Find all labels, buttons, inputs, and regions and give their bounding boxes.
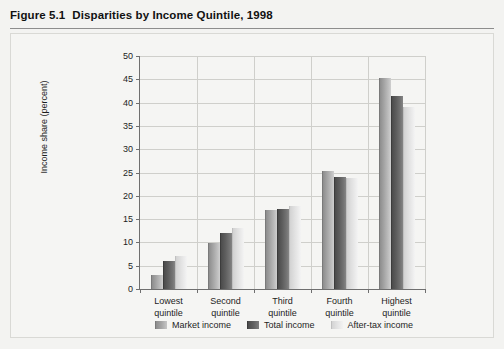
x-gridline — [197, 56, 198, 289]
chart-frame: Income share (percent) 05101520253035404… — [10, 33, 494, 338]
y-axis-tick — [136, 266, 140, 267]
y-axis-label: 35 — [123, 121, 133, 130]
legend-item-market[interactable]: Market income — [155, 320, 231, 330]
legend-item-aftertax[interactable]: After-tax income — [331, 320, 414, 330]
bar-total — [334, 177, 346, 289]
y-axis-label: 20 — [123, 191, 133, 200]
y-axis-label: 5 — [128, 261, 133, 270]
y-axis-tick — [136, 56, 140, 57]
x-gridline — [311, 56, 312, 289]
bar-total — [277, 209, 289, 289]
bar-aftertax — [403, 107, 415, 289]
plot-inner: 05101520253035404550LowestquintileSecond… — [140, 56, 425, 289]
bar-total — [391, 96, 403, 289]
bar-market — [265, 210, 277, 289]
bar-market — [379, 78, 391, 289]
bar-aftertax — [175, 256, 187, 289]
legend-swatch-icon — [247, 321, 259, 329]
y-axis-label: 50 — [123, 52, 133, 61]
x-axis-category-line: quintile — [364, 308, 430, 320]
bar-aftertax — [289, 206, 301, 289]
x-axis-tick — [311, 289, 312, 293]
plot-area: 05101520253035404550LowestquintileSecond… — [139, 56, 425, 290]
y-axis-label: 15 — [123, 215, 133, 224]
legend-swatch-icon — [155, 321, 167, 329]
bar-market — [151, 275, 163, 289]
x-gridline — [254, 56, 255, 289]
y-gridline — [140, 56, 425, 57]
bar-market — [208, 243, 220, 289]
y-axis-label: 25 — [123, 168, 133, 177]
x-axis-tick — [254, 289, 255, 293]
legend-item-label: Total income — [264, 320, 315, 330]
legend-swatch-icon — [331, 321, 343, 329]
legend-item-label: After-tax income — [348, 320, 414, 330]
y-axis-label: 10 — [123, 238, 133, 247]
y-axis-tick — [136, 149, 140, 150]
x-axis-category-line: Highest — [364, 296, 430, 308]
y-axis-tick — [136, 79, 140, 80]
y-axis-tick — [136, 126, 140, 127]
y-axis-tick — [136, 219, 140, 220]
title-divider — [10, 28, 494, 29]
y-axis-tick — [136, 196, 140, 197]
x-axis-tick — [197, 289, 198, 293]
y-axis-tick — [136, 173, 140, 174]
x-gridline — [368, 56, 369, 289]
y-axis-label: 40 — [123, 98, 133, 107]
y-axis-label: 30 — [123, 145, 133, 154]
x-axis-category-label: Highestquintile — [364, 296, 430, 319]
figure-title-text: Disparities by Income Quintile, 1998 — [72, 9, 272, 21]
x-axis-tick — [425, 289, 426, 293]
bar-aftertax — [346, 178, 358, 289]
y-axis-tick — [136, 103, 140, 104]
bar-total — [220, 233, 232, 289]
y-axis-tick — [136, 242, 140, 243]
figure-number: Figure 5.1 — [10, 9, 65, 21]
y-axis-label: 0 — [128, 285, 133, 294]
bar-market — [322, 171, 334, 289]
figure-title: Figure 5.1Disparities by Income Quintile… — [10, 8, 494, 22]
bar-total — [163, 261, 175, 289]
chart-legend: Market incomeTotal incomeAfter-tax incom… — [139, 320, 429, 330]
figure-container: Figure 5.1Disparities by Income Quintile… — [0, 0, 504, 349]
legend-item-label: Market income — [172, 320, 231, 330]
x-axis-tick — [368, 289, 369, 293]
x-axis-tick — [140, 289, 141, 293]
legend-item-total[interactable]: Total income — [247, 320, 315, 330]
y-axis-title: Income share (percent) — [39, 47, 49, 207]
bar-aftertax — [232, 228, 244, 289]
y-axis-label: 45 — [123, 75, 133, 84]
plot-right-edge — [425, 56, 426, 289]
figure-title-block: Figure 5.1Disparities by Income Quintile… — [10, 8, 494, 32]
